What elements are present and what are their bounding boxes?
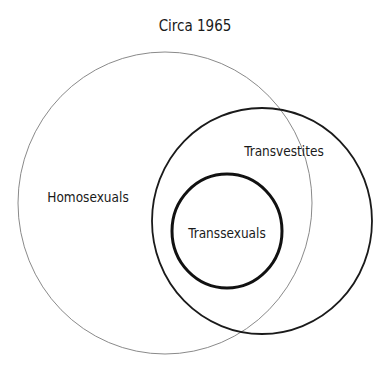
diagram-title: Circa 1965	[159, 17, 232, 35]
venn-diagram	[0, 0, 391, 373]
transvestites-circle	[152, 108, 372, 334]
homosexuals-label: Homosexuals	[47, 189, 128, 205]
transvestites-label: Transvestites	[244, 143, 324, 159]
transsexuals-label: Transsexuals	[188, 225, 266, 241]
